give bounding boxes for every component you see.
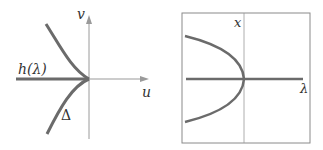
lambda-axis-label: λ [299,81,308,96]
v-axis-arrow-icon [86,15,92,24]
h-lambda-label: h(λ) [18,61,47,77]
right-panel: x λ [182,13,310,143]
x-axis-label: x [234,15,242,30]
diagram-canvas: v u h(λ) Δ x λ [0,0,323,150]
cusp-upper-branch [46,24,89,79]
u-axis-label: u [142,84,151,100]
v-axis-label: v [77,6,85,22]
delta-label: Δ [61,107,71,123]
u-axis-arrow-icon [140,76,149,82]
left-panel: v u h(λ) Δ [16,6,151,139]
